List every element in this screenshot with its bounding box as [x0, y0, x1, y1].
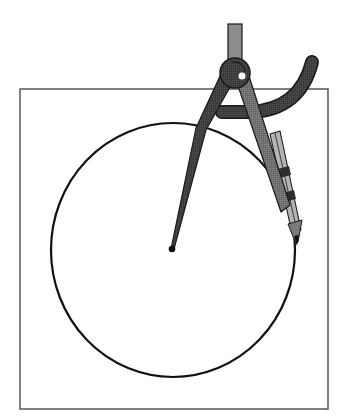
compass-hinge [220, 58, 250, 88]
needle-point [169, 246, 176, 253]
compass-drawing-illustration [0, 0, 345, 419]
compass [169, 24, 312, 252]
compass-needle-leg [171, 74, 234, 249]
compass-handle [228, 24, 242, 62]
hinge-highlight [239, 73, 246, 80]
